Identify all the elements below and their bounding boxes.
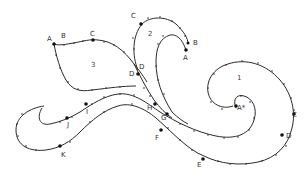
point-label-d-upper: D: [139, 63, 144, 71]
node-f: [159, 128, 163, 132]
node-d-right: [280, 133, 284, 137]
node-h: [153, 102, 157, 106]
node-a-top: [184, 48, 188, 52]
region-label-3: 3: [91, 61, 95, 69]
key-nodes: [52, 22, 296, 161]
curve-lower-ribbon: [16, 105, 204, 156]
point-label-d-right: D: [286, 132, 291, 140]
curve-upper-ribbon: [39, 94, 255, 137]
point-label-k: K: [61, 151, 66, 159]
node-a-left: [52, 42, 56, 46]
node-k: [58, 144, 62, 148]
point-label-j: J: [66, 121, 69, 129]
node-c-left: [91, 38, 95, 42]
node-d: [136, 72, 140, 76]
node-i: [84, 102, 88, 106]
scroll-curve-diagram: 1 2 3 A B C C A B D D H G F E A* C D I J…: [0, 0, 308, 180]
region-label-2: 2: [148, 30, 152, 38]
point-label-a-top: A: [183, 54, 188, 62]
point-label-d-lower: D: [129, 70, 134, 78]
point-label-i: I: [86, 108, 88, 116]
node-c-top: [139, 22, 143, 26]
point-label-c-top: C: [131, 12, 136, 20]
curve-region-2-inner: [156, 35, 188, 124]
point-label-c-right: C: [292, 111, 297, 119]
curve-ticks: [16, 16, 295, 165]
point-label-a-left: A: [47, 35, 52, 43]
point-label-e: E: [197, 161, 201, 169]
node-j: [65, 116, 69, 120]
point-label-b-top: B: [193, 39, 198, 47]
region-label-1: 1: [237, 74, 241, 82]
node-e: [201, 157, 205, 161]
point-label-g: G: [161, 114, 166, 122]
point-label-b-left: B: [61, 32, 66, 40]
point-label-f: F: [155, 134, 159, 142]
curve-spiral-outer: [204, 62, 294, 164]
point-label-a-star: A*: [237, 104, 246, 112]
node-b-top: [187, 42, 190, 45]
point-label-c-left: C: [90, 30, 95, 38]
point-label-h: H: [147, 104, 152, 112]
